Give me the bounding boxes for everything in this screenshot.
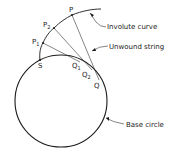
point-p1-dot (42, 42, 44, 44)
base-circle (15, 55, 107, 147)
label-p: P (69, 6, 73, 14)
label-q2: Q2 (82, 71, 91, 80)
arrow-involute-icon (90, 13, 94, 17)
label-q1: Q1 (72, 62, 81, 71)
label-base-circle: Base circle (126, 121, 164, 129)
label-q: Q (94, 82, 100, 90)
involute-curve (40, 9, 101, 60)
string-p1-q1 (43, 43, 80, 62)
point-p2-dot (53, 27, 55, 29)
label-p2: P2 (43, 21, 50, 30)
label-p1: P1 (32, 38, 39, 47)
label-involute-curve: Involute curve (107, 23, 157, 31)
label-unwound-string: Unwound string (109, 43, 164, 51)
arrow-base-icon (106, 117, 109, 121)
involute-diagram: Involute curve Unwound string Base circl… (0, 0, 175, 149)
point-p-dot (71, 14, 73, 16)
label-s: S (38, 62, 43, 70)
point-s-dot (39, 59, 41, 61)
arrow-string-icon (92, 48, 96, 51)
